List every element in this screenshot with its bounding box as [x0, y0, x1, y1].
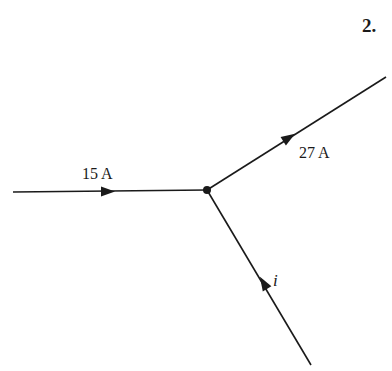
problem-number: 2.	[362, 16, 376, 35]
branch-lower-wire	[207, 190, 311, 365]
junction-node	[203, 186, 211, 194]
arrow-upper-right-icon	[281, 130, 298, 146]
label-i: i	[273, 272, 278, 289]
branch-upper-right-wire	[207, 77, 386, 190]
label-15a: 15 A	[82, 166, 113, 182]
arrow-right-icon	[101, 187, 115, 197]
label-27a: 27 A	[299, 145, 330, 161]
diagram-lines	[0, 0, 392, 371]
circuit-junction-diagram: 2. 15 A 27 A i	[0, 0, 392, 371]
